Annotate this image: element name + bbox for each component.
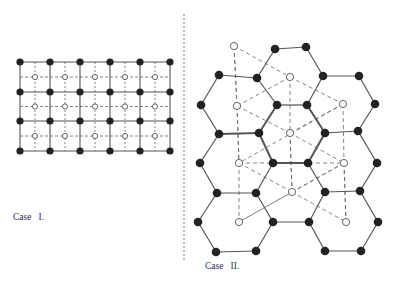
case2-node: [303, 101, 312, 110]
case1-open-site: [92, 104, 97, 109]
case2-hex-edge: [257, 49, 275, 78]
case2-hex-edge: [201, 105, 219, 134]
case1-open-site: [62, 74, 67, 79]
case1-node: [136, 147, 143, 154]
case2-node: [252, 247, 261, 256]
case2-node: [321, 188, 330, 197]
case1-open-site: [152, 104, 157, 109]
case2-dashed-vertical: [343, 104, 344, 163]
case2-node: [196, 159, 205, 168]
case-2-label: Case II.: [205, 261, 239, 271]
case2-node: [215, 71, 224, 80]
case2-dashed-link: [237, 77, 290, 106]
case2-hex-edge: [358, 131, 377, 163]
case2-open-site: [342, 218, 349, 225]
case1-open-site: [32, 104, 37, 109]
case1-node: [136, 88, 143, 95]
case1-node: [16, 117, 23, 124]
case2-hex-edge: [198, 193, 217, 222]
case1-node: [76, 58, 83, 65]
case2-node: [273, 101, 282, 110]
case2-node: [302, 43, 311, 52]
case1-node: [106, 147, 113, 154]
case2-node: [321, 129, 330, 138]
case2-node: [252, 189, 261, 198]
case2-hex-edge: [259, 105, 277, 133]
case1-node: [46, 117, 53, 124]
case2-dashed-vertical: [344, 163, 346, 222]
case1-node: [166, 117, 173, 124]
case2-node: [357, 247, 366, 256]
case2-hex-edge: [219, 75, 257, 78]
case2-dashed-link: [239, 163, 292, 192]
case2-hex-edge: [257, 78, 277, 105]
case2-hex-edge: [308, 133, 325, 163]
case1-node: [46, 147, 53, 154]
case2-node: [213, 189, 222, 198]
case2-hex-edge: [307, 105, 325, 133]
case2-node: [197, 101, 206, 110]
case2-node: [304, 159, 313, 168]
case2-node: [374, 218, 383, 227]
case1-node: [166, 147, 173, 154]
case1-open-site: [32, 74, 37, 79]
case1-open-site: [92, 74, 97, 79]
case1-open-site: [92, 133, 97, 138]
case1-node: [106, 58, 113, 65]
case2-dashed-link: [292, 163, 344, 192]
case1-node: [46, 88, 53, 95]
case1-open-site: [122, 133, 127, 138]
lattice-figure: Case I. Case II.: [0, 0, 396, 285]
case2-hex-edge: [200, 163, 217, 193]
case2-node: [373, 159, 382, 168]
case2-node: [305, 218, 314, 227]
case1-node: [106, 117, 113, 124]
case2-open-site: [286, 73, 293, 80]
case2-hex-edge: [309, 222, 325, 251]
case2-hex-edge: [201, 75, 219, 105]
case2-node: [269, 218, 278, 227]
case2-open-site: [230, 42, 237, 49]
case1-node: [46, 58, 53, 65]
case2-open-site: [340, 159, 347, 166]
case1-open-site: [32, 133, 37, 138]
case2-node: [269, 159, 278, 168]
case2-hex-edge: [256, 163, 273, 193]
case1-node: [106, 88, 113, 95]
case2-open-site: [286, 129, 293, 136]
case2-open-site: [235, 159, 242, 166]
case1-node: [76, 117, 83, 124]
case1-node: [16, 147, 23, 154]
case1-node: [166, 88, 173, 95]
case1-node: [136, 117, 143, 124]
case1-open-site: [152, 133, 157, 138]
case2-node: [321, 247, 330, 256]
case2-node: [271, 45, 280, 54]
case2-open-site: [339, 100, 346, 107]
case2-hex-edge: [198, 222, 216, 252]
case1-open-site: [62, 104, 67, 109]
case1-node: [166, 58, 173, 65]
case2-node: [255, 129, 264, 138]
case2-hex-edge: [306, 47, 323, 76]
case1-open-site: [62, 133, 67, 138]
case2-dashed-link: [239, 192, 292, 222]
case2-hex-edge: [325, 131, 358, 133]
case1-node: [76, 147, 83, 154]
case2-hex-edge: [216, 251, 256, 252]
case2-hex-edge: [256, 193, 273, 222]
lattice-diagram: [0, 0, 396, 285]
case2-dashed-link: [292, 192, 346, 222]
case-1-label: Case I.: [13, 212, 44, 222]
case2-hex-edge: [219, 133, 259, 134]
case2-hex-edge: [308, 163, 325, 192]
case1-node: [76, 88, 83, 95]
case2-node: [212, 248, 221, 257]
case2-open-site: [233, 102, 240, 109]
case2-hex-edge: [359, 76, 375, 104]
case1-node: [16, 88, 23, 95]
case2-hex-edge: [360, 163, 377, 191]
case2-hex-edge: [307, 76, 323, 105]
case2-hex-edge: [259, 133, 273, 163]
case1-node: [16, 58, 23, 65]
